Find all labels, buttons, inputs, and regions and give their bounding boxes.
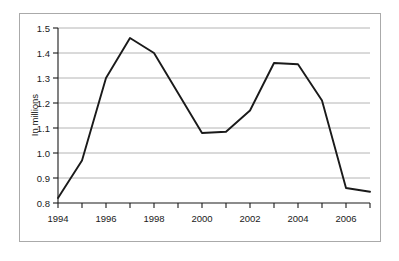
x-tick-label-1994: 1994 xyxy=(47,213,68,224)
x-tick-label-2004: 2004 xyxy=(287,213,308,224)
y-tick-label-1.0: 1.0 xyxy=(37,148,50,159)
x-axis-ticks xyxy=(58,203,370,208)
data-series-line xyxy=(58,38,370,198)
x-tick-label-1998: 1998 xyxy=(143,213,164,224)
y-axis-title: In millions xyxy=(29,94,40,136)
x-tick-label-2002: 2002 xyxy=(239,213,260,224)
x-axis-tick-labels: 1994 1996 1998 2000 2002 2004 2006 xyxy=(47,213,356,224)
x-tick-label-2000: 2000 xyxy=(191,213,212,224)
y-axis-ticks xyxy=(53,28,58,203)
line-chart: 1.5 1.4 1.3 1.2 1.1 1.0 0.9 0.8 1994 199… xyxy=(0,0,399,261)
y-tick-label-0.8: 0.8 xyxy=(37,198,50,209)
y-tick-label-1.4: 1.4 xyxy=(37,48,50,59)
x-tick-label-1996: 1996 xyxy=(95,213,116,224)
y-tick-label-0.9: 0.9 xyxy=(37,173,50,184)
chart-figure: 1.5 1.4 1.3 1.2 1.1 1.0 0.9 0.8 1994 199… xyxy=(0,0,399,261)
x-tick-label-2006: 2006 xyxy=(335,213,356,224)
y-tick-label-1.5: 1.5 xyxy=(37,23,50,34)
y-tick-label-1.3: 1.3 xyxy=(37,73,50,84)
